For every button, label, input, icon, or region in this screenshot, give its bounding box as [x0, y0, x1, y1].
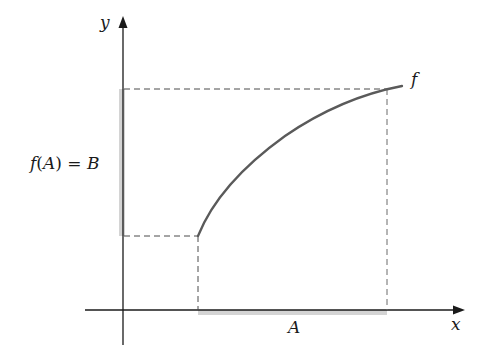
- function-diagram: y x f A f(A) = B: [0, 0, 481, 356]
- image-equation-label: f(A) = B: [28, 153, 99, 173]
- image-close-paren: ): [55, 153, 62, 173]
- domain-shade-a: [198, 310, 387, 315]
- image-equals: =: [62, 153, 87, 173]
- y-axis-label: y: [99, 12, 110, 32]
- image-result-b: B: [86, 153, 100, 173]
- domain-label-a: A: [286, 317, 300, 337]
- y-axis-arrow-icon: [119, 16, 128, 28]
- x-axis-label: x: [451, 314, 461, 334]
- image-arg: A: [41, 153, 55, 173]
- range-shade-b: [119, 89, 125, 236]
- function-curve-f: [198, 86, 402, 236]
- image-open-paren: (: [36, 153, 43, 173]
- function-label: f: [409, 69, 420, 89]
